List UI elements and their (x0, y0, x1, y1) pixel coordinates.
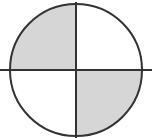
quartered-circle-diagram (0, 0, 152, 138)
figure-container (0, 0, 152, 138)
